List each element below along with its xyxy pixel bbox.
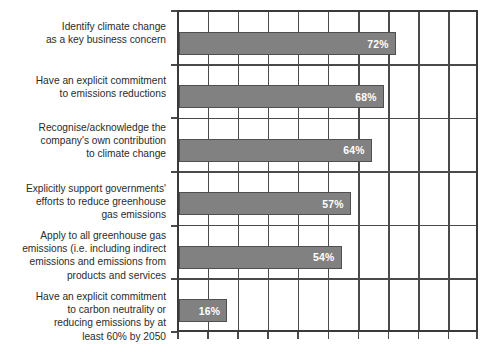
bar-value-label: 68% [355, 91, 376, 102]
x-axis-tick-20 [237, 332, 239, 339]
x-axis-tick-100 [476, 332, 478, 339]
x-axis-tick-60 [358, 332, 360, 339]
x-axis-tick-0 [177, 332, 179, 339]
bar-value-label: 72% [367, 38, 388, 49]
band-separator [179, 118, 476, 120]
bar-category-4: 54% [179, 246, 342, 269]
x-axis-tick-10 [207, 332, 209, 339]
category-label: Identify climate change as a key busines… [0, 20, 166, 46]
bar-category-2: 64% [179, 139, 372, 162]
bar-category-3: 57% [179, 192, 351, 215]
category-label: Have an explicit commitment to emissions… [0, 74, 166, 100]
x-axis-tick-90 [448, 332, 450, 339]
x-axis-tick-50 [328, 332, 330, 339]
x-axis-tick-80 [418, 332, 420, 339]
plot-area: 72% 68% 64% 57% 54% 16% [177, 10, 478, 332]
bar-value-label: 64% [343, 145, 364, 156]
bar-value-label: 16% [199, 305, 220, 316]
horizontal-bar-chart: Identify climate change as a key busines… [0, 0, 501, 364]
bar-category-1: 68% [179, 85, 384, 108]
x-axis-tick-70 [388, 332, 390, 339]
bar-value-label: 54% [313, 252, 334, 263]
x-axis-tick-40 [297, 332, 299, 339]
category-label: Recognise/acknowledge the company's own … [0, 121, 166, 161]
bar-value-label: 57% [322, 198, 343, 209]
band-separator [179, 278, 476, 280]
category-label-column: Identify climate change as a key busines… [0, 0, 172, 364]
band-separator [179, 64, 476, 66]
bar-category-5: 16% [179, 299, 227, 322]
band-separator [179, 225, 476, 227]
band-separator [179, 171, 476, 173]
category-label: Apply to all greenhouse gas emissions (i… [0, 229, 166, 282]
bar-category-0: 72% [179, 32, 396, 55]
category-label: Have an explicit commitment to carbon ne… [0, 290, 166, 343]
category-label: Explicitly support governments' efforts … [0, 182, 166, 222]
x-axis-tick-30 [267, 332, 269, 339]
